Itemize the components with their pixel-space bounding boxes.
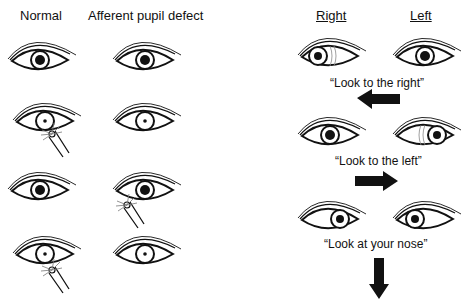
eye-normal-2 xyxy=(13,103,81,157)
eye-apd-3 xyxy=(113,172,181,228)
eye-apd-2 xyxy=(113,103,181,130)
eye-normal-4 xyxy=(13,236,81,293)
right-arrow-icon xyxy=(355,171,398,191)
eye-left-look-right xyxy=(393,38,461,65)
eye-normal-3 xyxy=(8,172,76,199)
eye-right-look-right xyxy=(298,38,366,66)
down-arrow-icon xyxy=(369,258,389,299)
eye-apd-1 xyxy=(113,42,181,69)
eye-apd-4 xyxy=(113,236,181,263)
eye-left-look-left xyxy=(393,117,461,145)
eye-left-look-nose xyxy=(393,201,461,228)
eye-right-look-left xyxy=(298,117,366,144)
eye-right-look-nose xyxy=(298,201,366,228)
eye-normal-1 xyxy=(8,42,76,69)
diagram-canvas xyxy=(0,0,463,305)
left-arrow-icon xyxy=(357,89,400,109)
